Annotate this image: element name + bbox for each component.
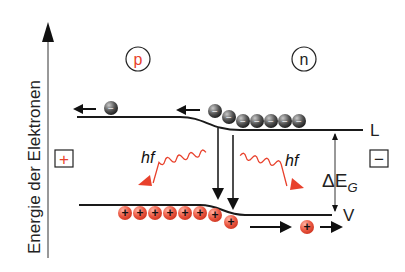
svg-text:−: − <box>282 116 288 127</box>
svg-text:−: − <box>254 116 260 127</box>
photon-arrow-icon <box>138 175 152 186</box>
p-region-label: p <box>134 51 143 68</box>
conduction-band-label: L <box>370 121 379 140</box>
svg-text:−: − <box>268 116 274 127</box>
svg-text:−: − <box>226 112 232 123</box>
n-side-hole-drift: + <box>250 220 343 234</box>
band-gap-label: ΔEG <box>322 170 358 195</box>
svg-text:+: + <box>136 206 143 220</box>
arrow-right-icon <box>331 221 343 233</box>
n-side-electrons: − − − − − − − <box>208 104 306 128</box>
n-region-label: n <box>300 51 309 68</box>
svg-text:+: + <box>181 206 188 220</box>
svg-text:+: + <box>151 206 158 220</box>
svg-text:+: + <box>211 208 218 222</box>
plus-terminal-sign: + <box>59 150 69 169</box>
arrow-down-icon <box>227 198 239 210</box>
svg-text:+: + <box>121 206 128 220</box>
valence-band-label: V <box>343 206 355 225</box>
svg-text:+: + <box>196 206 203 220</box>
p-side-electron-drift: − <box>73 101 118 115</box>
axis-label: Energie der Elektronen <box>25 80 44 254</box>
arrow-left-icon <box>176 105 186 115</box>
svg-text:+: + <box>166 206 173 220</box>
svg-text:−: − <box>212 106 218 117</box>
svg-text:−: − <box>108 103 114 114</box>
electron-drift-arrow <box>176 105 200 115</box>
photon-label-left: hf <box>141 149 156 166</box>
conduction-band-line <box>77 117 363 130</box>
minus-terminal-sign: − <box>374 150 384 169</box>
arrow-left-icon <box>73 104 83 114</box>
recombination-arrows <box>212 128 239 210</box>
svg-text:+: + <box>303 220 310 234</box>
energy-band-diagram: Energie der Elektronen p n L V − − − − −… <box>0 0 405 272</box>
svg-text:−: − <box>240 116 246 127</box>
svg-text:+: + <box>227 215 234 229</box>
svg-text:−: − <box>296 116 302 127</box>
arrow-down-icon <box>212 188 224 200</box>
photon-label-right: hf <box>285 152 300 169</box>
photon-arrow-icon <box>290 178 304 190</box>
axis-arrow-icon <box>42 22 54 42</box>
arrow-right-icon <box>280 221 292 233</box>
